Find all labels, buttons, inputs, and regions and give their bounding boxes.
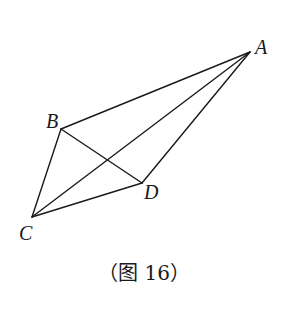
segment-bd	[61, 129, 142, 183]
segment-ab	[61, 52, 250, 129]
segment-ad	[142, 52, 250, 183]
segment-ac	[32, 52, 250, 217]
segment-bc	[32, 129, 61, 217]
label-b: B	[46, 110, 58, 132]
label-d: D	[143, 181, 159, 203]
figure-caption: （图 16）	[0, 257, 288, 286]
label-c: C	[19, 222, 33, 244]
label-a: A	[253, 36, 268, 58]
segment-cd	[32, 183, 142, 217]
